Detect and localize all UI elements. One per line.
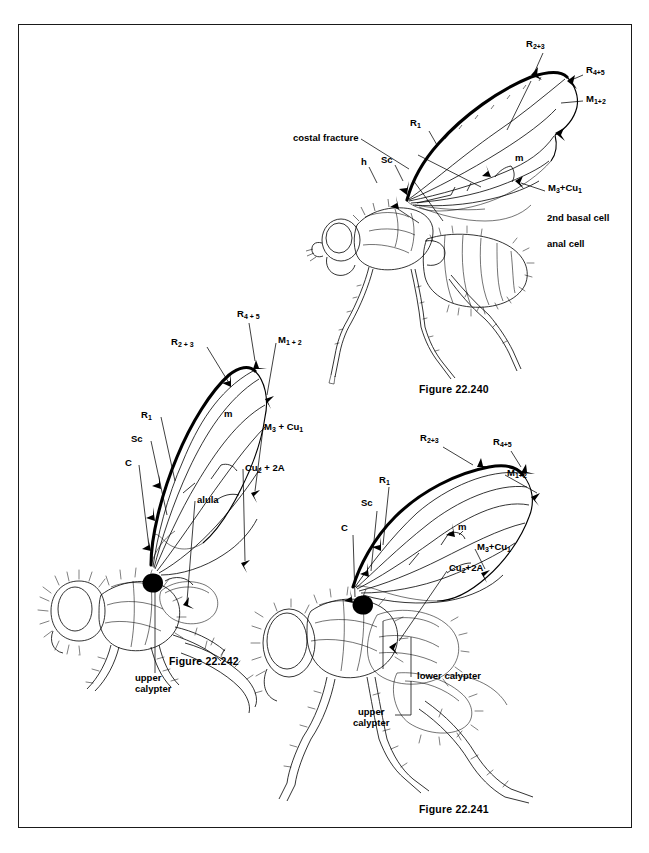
figure-22-242-caption: Figure 22.242 <box>169 655 239 667</box>
illustration-page: R2+3 R4+5 M1+2 m M3+Cu1 R1 Sc h costal f… <box>0 0 649 853</box>
figure-22-241-caption: Figure 22.241 <box>419 803 489 815</box>
label-upper-calypter: uppercalypter <box>135 673 171 694</box>
figure-22-241: R2+3 R4+5 M1+2 R1 Sc C m M3+Cu1 Cu2+2A l… <box>249 425 639 825</box>
figure-22-240: R2+3 R4+5 M1+2 m M3+Cu1 R1 Sc h costal f… <box>299 35 629 395</box>
figure-22-240-caption: Figure 22.240 <box>419 383 489 395</box>
page-frame-border: R2+3 R4+5 M1+2 m M3+Cu1 R1 Sc h costal f… <box>18 24 632 828</box>
figure-22-240-leaders <box>299 35 629 395</box>
figure-22-241-leaders <box>249 425 639 825</box>
